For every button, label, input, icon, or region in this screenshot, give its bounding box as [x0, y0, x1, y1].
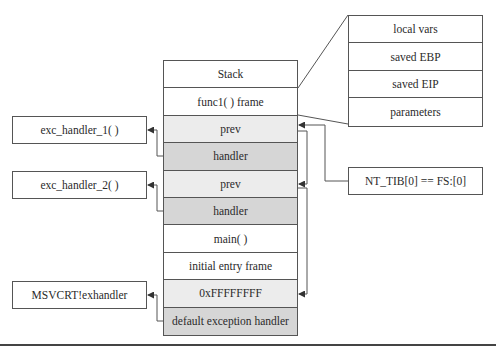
stack-row-handler-2: handler [164, 198, 297, 225]
stack-row-prev-2: prev [164, 171, 297, 198]
handler1-arrow [148, 130, 163, 156]
stack-row-prev-1: prev [164, 116, 297, 143]
stack-row-end-marker: 0xFFFFFFFF [164, 280, 297, 307]
prev2-link-arrow [298, 188, 307, 294]
stack-diagram: Stack func1( ) frame prev handler prev h… [163, 60, 298, 336]
zoom-line-top [298, 15, 348, 88]
frame-row-saved-ebp: saved EBP [349, 43, 482, 70]
stack-row-handler-1: handler [164, 143, 297, 170]
frame-detail: local vars saved EBP saved EIP parameter… [348, 15, 483, 127]
frame-row-parameters: parameters [349, 98, 482, 125]
nt-tib-box: NT_TIB[0] == FS:[0] [348, 167, 483, 195]
bottom-rule [0, 344, 496, 346]
stack-row-func1-frame: func1( ) frame [164, 88, 297, 115]
exc-handler-1-box: exc_handler_1( ) [12, 116, 147, 144]
frame-row-local-vars: local vars [349, 16, 482, 43]
stack-row-title: Stack [164, 61, 297, 88]
zoom-line-bottom [298, 115, 348, 124]
exc-handler-2-box: exc_handler_2( ) [12, 171, 147, 199]
stack-row-initial-entry-frame: initial entry frame [164, 253, 297, 280]
handler2-arrow [148, 185, 163, 211]
prev1-link-arrow [298, 131, 307, 184]
msvcrt-exhandler-box: MSVCRT!exhandler [12, 281, 147, 309]
stack-row-main: main( ) [164, 225, 297, 252]
tib-arrow [299, 125, 348, 181]
frame-row-saved-eip: saved EIP [349, 71, 482, 98]
default-handler-arrow [148, 295, 163, 321]
stack-row-default-handler: default exception handler [164, 308, 297, 335]
